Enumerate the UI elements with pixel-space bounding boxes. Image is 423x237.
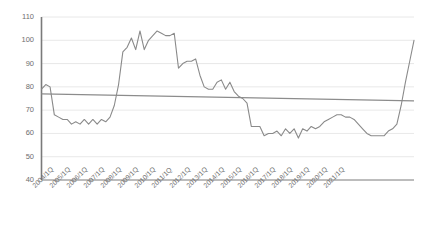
axis-lines	[42, 17, 415, 180]
y-axis-label: 90	[12, 59, 34, 68]
plot-area	[0, 0, 423, 237]
y-axis-label: 110	[12, 12, 34, 21]
data-line	[42, 31, 415, 138]
y-axis-label: 50	[12, 152, 34, 161]
y-axis-label: 100	[12, 35, 34, 44]
line-chart-svg	[0, 0, 423, 237]
gridlines	[42, 17, 415, 157]
chart-container: 405060708090100110 2004/1Q2005/1Q2006/1Q…	[0, 0, 423, 237]
y-axis-label: 70	[12, 105, 34, 114]
y-axis-label: 80	[12, 82, 34, 91]
trend-line	[42, 94, 415, 101]
y-axis-label: 60	[12, 128, 34, 137]
